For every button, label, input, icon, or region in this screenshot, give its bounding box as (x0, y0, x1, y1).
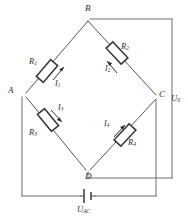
node-label-B: B (85, 4, 91, 13)
node-label-A: A (8, 86, 14, 95)
battery-symbol (80, 189, 96, 203)
current-label-I3: I3 (58, 104, 63, 113)
output-voltage-label-U0: U0 (171, 94, 180, 104)
current-label-I4: I4 (104, 120, 109, 129)
current-label-I1: I1 (55, 80, 60, 89)
resistor-label-R4: R4 (128, 138, 136, 148)
current-arrow-I1-head (59, 67, 64, 72)
resistor-R3 (37, 109, 58, 132)
resistor-R3-body (37, 109, 58, 132)
resistor-label-R3: R3 (29, 128, 37, 138)
circuit-diagram-canvas: B A C D R1 R2 R3 R4 I1 I2 I3 I4 U0 UAC (0, 0, 188, 220)
resistor-label-R2: R2 (121, 42, 129, 52)
current-arrow-I3-head (57, 117, 62, 122)
source-label-U-AC: UAC (77, 205, 90, 215)
node-label-C: C (159, 90, 165, 99)
node-label-D: D (85, 172, 92, 181)
circuit-schematic-svg (0, 0, 188, 220)
resistor-label-R1: R1 (29, 57, 37, 67)
current-label-I2: I2 (105, 65, 110, 74)
